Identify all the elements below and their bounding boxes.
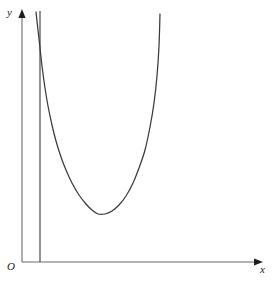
- y-axis: [18, 9, 25, 262]
- plot-canvas: [0, 0, 274, 285]
- y-axis-arrowhead: [18, 9, 25, 18]
- math-graph-figure: y x O: [0, 0, 274, 285]
- origin-label: O: [7, 261, 15, 272]
- y-axis-label: y: [7, 7, 12, 18]
- curve-path: [36, 12, 160, 214]
- x-axis-label: x: [260, 264, 265, 275]
- x-axis: [22, 259, 263, 266]
